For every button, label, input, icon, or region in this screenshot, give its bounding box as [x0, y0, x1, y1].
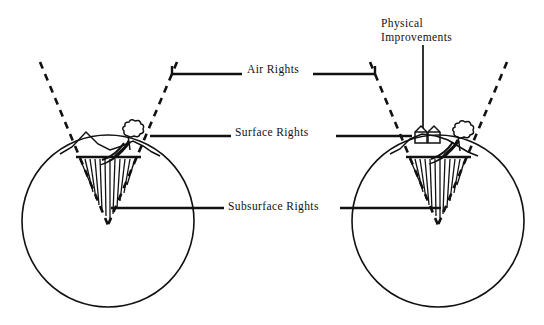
diagram-canvas [0, 0, 544, 325]
right-parcel-group [352, 62, 524, 307]
right-cone-edge-right [438, 62, 507, 225]
land-rights-diagram: Air Rights Surface Rights Subsurface Rig… [0, 0, 544, 325]
label-physical-improvements-line2: Improvements [381, 30, 452, 44]
label-physical-improvements: Physical Improvements [381, 16, 452, 45]
label-surface-rights: Surface Rights [235, 126, 309, 140]
label-air-rights: Air Rights [247, 63, 299, 77]
label-physical-improvements-line1: Physical [381, 16, 452, 30]
left-cone-edge-right [108, 62, 177, 225]
left-parcel-group [22, 62, 194, 307]
left-earth-circle [22, 135, 194, 307]
label-subsurface-rights: Subsurface Rights [228, 200, 319, 214]
